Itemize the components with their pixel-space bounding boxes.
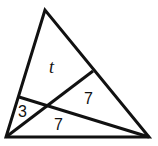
triangle-diagram: t 3 7 7	[0, 0, 158, 146]
region-label-left: 3	[18, 103, 27, 120]
outer-triangle	[6, 10, 149, 137]
region-label-right: 7	[84, 90, 93, 107]
region-label-t: t	[49, 57, 55, 77]
region-label-bottom: 7	[54, 116, 63, 133]
